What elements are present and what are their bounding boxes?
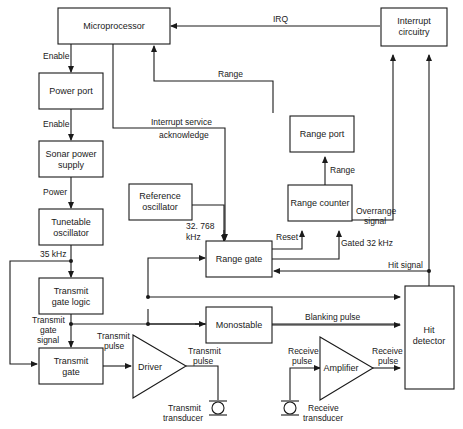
receive-transducer-icon — [281, 401, 299, 415]
driver-to-transducer — [186, 366, 218, 400]
microprocessor-label: Microprocessor — [83, 21, 145, 31]
tg-signal-label: gate — [40, 325, 57, 335]
hit-detector-label: detector — [413, 336, 446, 346]
overrange-label: Overrange — [356, 206, 396, 216]
range-port-label: Range port — [300, 129, 345, 139]
junction-dot — [146, 322, 150, 326]
rx-transducer-label: Receive — [308, 403, 339, 413]
tunetable-oscillator-label: Tunetable — [51, 217, 91, 227]
tx-pulse-label: Transmit — [188, 346, 221, 356]
hit-detector-label: Hit — [424, 325, 435, 335]
gated-label: Gated 32 kHz — [341, 238, 393, 248]
interrupt-circuitry-label: circuitry — [399, 27, 430, 37]
range-gate-label: Range gate — [216, 254, 263, 264]
junction-dot — [69, 322, 73, 326]
tx-pulse-label: pulse — [193, 356, 214, 366]
enable-label: Enable — [43, 51, 70, 61]
reset-label: Reset — [276, 232, 299, 242]
reference-oscillator-label: Reference — [139, 191, 181, 201]
ref-freq-label: 32. 768 — [186, 221, 215, 231]
transmit-gate-label: gate — [62, 367, 80, 377]
hit-signal-label: Hit signal — [388, 260, 423, 270]
interrupt-circuitry-label: Interrupt — [397, 16, 431, 26]
junction-dot — [146, 295, 150, 299]
sonar-block-diagram: Microprocessor Interrupt circuitry Power… — [0, 0, 463, 429]
rx-pulse-label: pulse — [292, 356, 313, 366]
monostable-label: Monostable — [216, 320, 263, 330]
range-to-mp-line — [154, 46, 273, 113]
tx-pulse-label: Transmit — [97, 331, 130, 341]
rx-pulse-label: pulse — [378, 356, 399, 366]
blanking-label: Blanking pulse — [305, 312, 361, 322]
driver-label: Driver — [138, 362, 162, 372]
tx-pulse-label: pulse — [104, 341, 125, 351]
sonar-power-supply-block[interactable] — [39, 141, 103, 177]
enable-label: Enable — [43, 119, 70, 129]
junction-dot — [427, 269, 431, 273]
tunetable-oscillator-block[interactable] — [39, 209, 103, 245]
rx-transducer-label: transducer — [303, 413, 343, 423]
range-label: Range — [218, 69, 243, 79]
tx-transducer-label: transducer — [163, 413, 203, 423]
sonar-power-supply-label: supply — [58, 160, 85, 170]
overrange-line — [352, 55, 393, 220]
tg-signal-label: signal — [37, 335, 59, 345]
range-counter-label: Range counter — [290, 198, 349, 208]
35khz-label: 35 kHz — [40, 249, 66, 259]
rx-transducer-line — [290, 368, 320, 400]
sonar-power-supply-label: Sonar power — [45, 149, 96, 159]
transmit-transducer-icon — [209, 401, 227, 415]
transmit-gate-logic-label: gate logic — [52, 297, 91, 307]
amplifier-label: Amplifier — [323, 363, 358, 373]
isa-label: acknowledge — [159, 130, 209, 140]
reference-oscillator-label: oscillator — [142, 202, 178, 212]
transmit-gate-block[interactable] — [39, 348, 103, 384]
tg-signal-label: Transmit — [32, 315, 65, 325]
rx-pulse-label: Receive — [372, 346, 403, 356]
rx-pulse-label: Receive — [288, 346, 319, 356]
overrange-label: signal — [364, 216, 386, 226]
bus-to-range-gate — [148, 258, 205, 272]
transmit-gate-logic-label: Transmit — [54, 286, 89, 296]
tunetable-oscillator-label: oscillator — [53, 228, 89, 238]
ref-freq-label: kHz — [186, 232, 201, 242]
range-label: Range — [330, 165, 355, 175]
power-label: Power — [43, 187, 67, 197]
tx-transducer-label: Transmit — [168, 403, 201, 413]
irq-label: IRQ — [273, 14, 289, 24]
transmit-gate-label: Transmit — [54, 356, 89, 366]
isa-label: Interrupt service — [151, 117, 212, 127]
power-port-label: Power port — [49, 86, 93, 96]
junction-dot — [69, 259, 73, 263]
transmit-gate-logic-block[interactable] — [39, 278, 103, 314]
